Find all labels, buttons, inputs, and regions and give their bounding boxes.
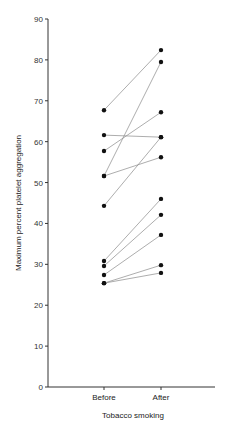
paired-line [104,235,161,275]
data-point [102,174,106,178]
data-point [159,263,163,267]
paired-line [104,135,161,137]
y-tick-label: 50 [34,179,43,188]
paired-dot-chart: 0102030405060708090 BeforeAfter Maximum … [0,0,225,436]
data-point [102,133,106,137]
y-tick-label: 0 [39,383,44,392]
paired-lines [104,50,161,283]
paired-line [104,199,161,261]
data-point [159,233,163,237]
data-point [159,110,163,114]
data-point [159,213,163,217]
data-point [102,281,106,285]
data-point [159,155,163,159]
x-tick-label: Before [92,393,116,402]
x-axis-ticks: BeforeAfter [92,387,170,402]
y-tick-label: 70 [34,97,43,106]
y-tick-label: 20 [34,301,43,310]
y-tick-label: 90 [34,15,43,24]
paired-line [104,112,161,151]
paired-line [104,215,161,266]
paired-line [104,62,161,176]
y-axis-ticks: 0102030405060708090 [34,15,48,392]
y-tick-label: 30 [34,260,43,269]
y-tick-label: 40 [34,219,43,228]
data-point [102,149,106,153]
data-point [159,197,163,201]
y-axis-title: Maximum percent platelet aggregation [14,135,23,271]
data-point [159,48,163,52]
x-axis-title: Tobacco smoking [102,411,164,420]
data-point [102,259,106,263]
y-tick-label: 10 [34,342,43,351]
y-tick-label: 60 [34,138,43,147]
data-point [159,60,163,64]
data-point [102,108,106,112]
data-point [159,271,163,275]
paired-line [104,137,161,206]
y-tick-label: 80 [34,56,43,65]
x-tick-label: After [153,393,170,402]
data-point [159,135,163,139]
data-point [102,273,106,277]
paired-line [104,157,161,176]
paired-line [104,50,161,110]
axes [48,19,215,387]
data-point [102,204,106,208]
data-point [102,264,106,268]
